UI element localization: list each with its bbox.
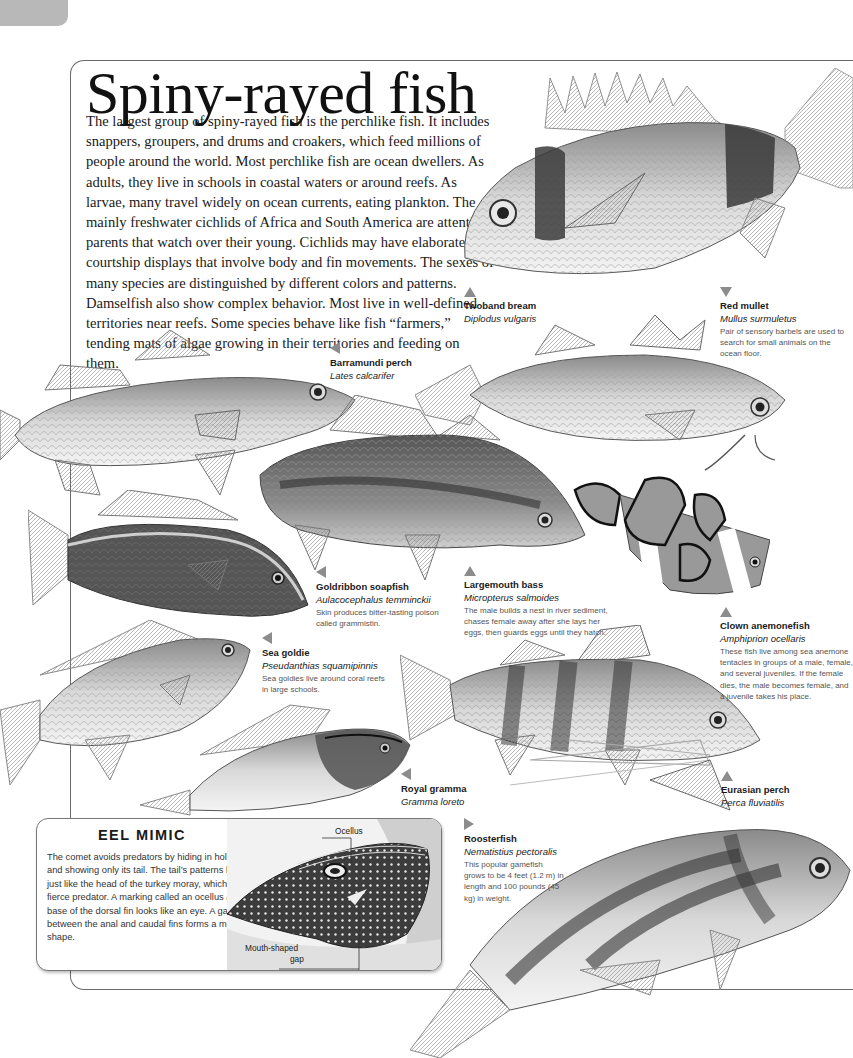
caption-royal-gramma: Royal gramma Gramma loreto xyxy=(401,768,466,808)
eel-mimic-panel: EEL MIMIC The comet avoids predators by … xyxy=(36,818,442,971)
caption-goldribbon-soapfish: Goldribbon soapfish Aulacocephalus temmi… xyxy=(316,566,456,629)
species-common-name: Clown anemonefish xyxy=(720,620,853,633)
caption-sea-goldie: Sea goldie Pseudanthias squamipinnis Sea… xyxy=(262,632,392,695)
species-description: Pair of sensory barbels are used to sear… xyxy=(720,326,850,360)
caption-clown-anemonefish: Clown anemonefish Amphiprion ocellaris T… xyxy=(720,607,853,702)
caption-roosterfish: Roosterfish Nematistius pectoralis This … xyxy=(464,818,564,904)
caption-barramundi-perch: Barramundi perch Lates calcarifer xyxy=(330,342,412,382)
caption-red-mullet: Red mullet Mullus surmuletus Pair of sen… xyxy=(720,287,850,360)
species-common-name: Royal gramma xyxy=(401,783,466,796)
eel-mimic-text: The comet avoids predators by hiding in … xyxy=(47,851,251,945)
species-scientific-name: Lates calcarifer xyxy=(330,370,412,383)
species-scientific-name: Mullus surmuletus xyxy=(720,313,850,326)
species-common-name: Sea goldie xyxy=(262,647,392,660)
pointer-left-icon xyxy=(262,632,272,644)
pointer-down-icon xyxy=(720,287,732,297)
species-description: These fish live among sea anemone tentac… xyxy=(720,646,853,702)
pointer-up-icon xyxy=(464,566,476,576)
species-common-name: Barramundi perch xyxy=(330,357,412,370)
species-scientific-name: Aulacocephalus temminckii xyxy=(316,594,456,607)
species-description: Sea goldies live around coral reefs in l… xyxy=(262,673,392,695)
pointer-left-icon xyxy=(330,342,340,354)
twoband-bream-illustration xyxy=(455,58,853,278)
species-scientific-name: Pseudanthias squamipinnis xyxy=(262,660,392,673)
mouth-gap-label-line1: Mouth-shaped xyxy=(245,943,298,953)
ocellus-label: Ocellus xyxy=(335,826,363,836)
page-number-tab xyxy=(0,0,68,26)
species-common-name: Goldribbon soapfish xyxy=(316,581,456,594)
species-common-name: Red mullet xyxy=(720,300,850,313)
pointer-right-icon xyxy=(464,818,474,830)
mouth-gap-label-line2: gap xyxy=(290,954,304,964)
species-scientific-name: Perca fluviatilis xyxy=(721,797,790,810)
species-scientific-name: Diplodus vulgaris xyxy=(464,313,536,326)
caption-largemouth-bass: Largemouth bass Micropterus salmoides Th… xyxy=(464,566,609,639)
caption-twoband-bream: Twoband bream Diplodus vulgaris xyxy=(464,287,536,325)
pointer-up-icon xyxy=(464,287,476,297)
comet-tail-photo: Ocellus Mouth-shaped gap xyxy=(227,819,442,971)
pointer-left-icon xyxy=(401,768,411,780)
pointer-up-icon xyxy=(720,607,732,617)
species-description: This popular gamefish grows to be 4 feet… xyxy=(464,859,564,904)
goldribbon-soapfish-illustration xyxy=(28,490,313,625)
species-description: Skin produces bitter-tasting poison call… xyxy=(316,607,456,629)
species-scientific-name: Micropterus salmoides xyxy=(464,592,609,605)
species-description: The male builds a nest in river sediment… xyxy=(464,605,609,639)
species-scientific-name: Gramma loreto xyxy=(401,796,466,809)
caption-eurasian-perch: Eurasian perch Perca fluviatilis xyxy=(721,771,790,809)
species-scientific-name: Nematistius pectoralis xyxy=(464,846,564,859)
species-common-name: Twoband bream xyxy=(464,300,536,313)
species-scientific-name: Amphiprion ocellaris xyxy=(720,633,853,646)
eel-mimic-title: EEL MIMIC xyxy=(37,827,247,843)
species-common-name: Eurasian perch xyxy=(721,784,790,797)
pointer-up-icon xyxy=(721,771,733,781)
species-common-name: Largemouth bass xyxy=(464,579,609,592)
species-common-name: Roosterfish xyxy=(464,833,564,846)
royal-gramma-illustration xyxy=(140,700,415,820)
pointer-left-icon xyxy=(316,566,326,578)
